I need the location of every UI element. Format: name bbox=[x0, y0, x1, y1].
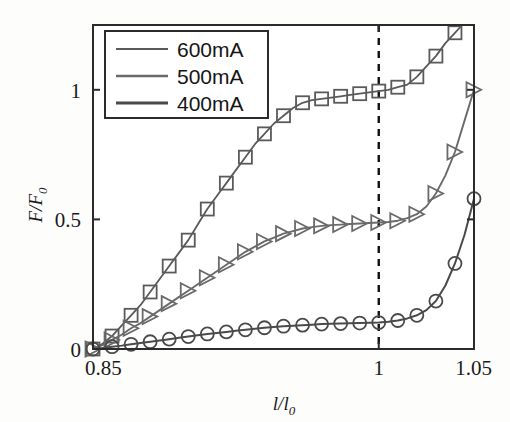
x-tick-label: 1.05 bbox=[455, 356, 492, 380]
legend-label-400mA: 400mA bbox=[177, 92, 244, 115]
legend-label-600mA: 600mA bbox=[177, 38, 244, 61]
x-axis-title: l/l0 bbox=[273, 393, 296, 418]
legend-label-500mA: 500mA bbox=[177, 65, 244, 88]
line-chart: 00.510.8511.05 F/F0 l/l0 600mA500mA400mA bbox=[0, 0, 510, 422]
svg-text:l/l0: l/l0 bbox=[273, 393, 296, 418]
svg-text:F/F0: F/F0 bbox=[25, 187, 50, 224]
legend: 600mA500mA400mA bbox=[105, 31, 268, 118]
x-tick-label: 0.85 bbox=[85, 356, 122, 380]
y-tick-label: 1 bbox=[71, 79, 82, 103]
y-axis-title: F/F0 bbox=[25, 187, 50, 224]
y-tick-label: 0.5 bbox=[55, 208, 81, 232]
y-tick-label: 0 bbox=[71, 338, 82, 362]
x-tick-label: 1 bbox=[374, 356, 385, 380]
figure-container: 00.510.8511.05 F/F0 l/l0 600mA500mA400mA bbox=[0, 0, 510, 422]
